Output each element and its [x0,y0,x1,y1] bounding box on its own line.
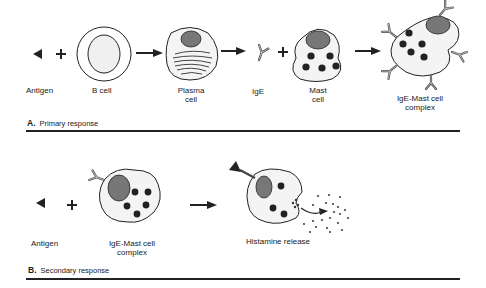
panel-b-title: B.Secondary response [28,265,109,275]
plus-icon-a1 [56,49,66,59]
panel-b-divider [26,278,460,280]
histamine-particles [303,194,349,233]
ige-antibody-icon [254,45,268,62]
mast-cell-icon [293,29,341,81]
label-antigen-a: Antigen [26,86,53,95]
ige-mast-cell-complex-icon-b [89,169,160,222]
label-mast-cell: Mast cell [303,86,333,104]
label-antigen-b: Antigen [31,239,58,248]
bound-antigen-icon [229,161,241,172]
ige-mast-cell-complex-icon-a [382,1,467,89]
diagram-canvas [0,0,486,288]
panel-a-title: A.Primary response [27,118,98,128]
label-histamine-release: Histamine release [246,237,310,246]
histamine-release-cell-icon [229,161,349,233]
label-complex-a: IgE-Mast cell complex [388,94,452,112]
arrow-icon-b1 [190,201,217,209]
plasma-cell-icon [166,28,218,81]
label-b-cell: B cell [92,86,112,95]
plus-icon-b [67,200,77,210]
b-cell-icon [77,27,131,81]
panel-a-divider [26,130,460,132]
antigen-icon-a [33,49,42,59]
label-plasma-cell: Plasma cell [176,86,206,104]
antigen-icon-b [36,198,45,208]
arrow-icon-a2 [221,47,246,55]
label-ige: IgE [252,87,264,96]
arrow-icon-a1 [136,49,163,57]
arrow-icon-a3 [355,47,381,55]
label-complex-b: IgE-Mast cell complex [102,239,162,257]
plus-icon-a2 [278,47,288,57]
